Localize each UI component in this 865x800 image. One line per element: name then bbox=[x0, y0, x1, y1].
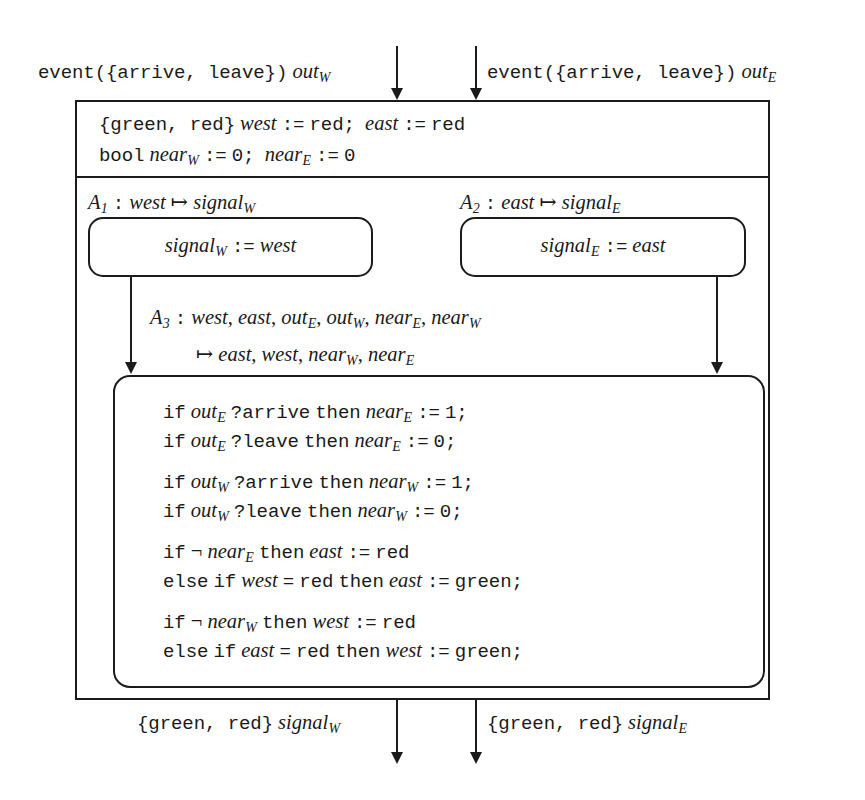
declaration-line-2: bool nearW := 0; nearE := 0 bbox=[99, 143, 355, 169]
statement-1: if outE ?arrive then nearE := 1; bbox=[163, 397, 523, 426]
statement-6: else if west = red then east := green; bbox=[163, 566, 523, 595]
atom-box-a1: signalW := west bbox=[88, 217, 373, 277]
statement-3: if outW ?arrive then nearW := 1; bbox=[163, 467, 523, 496]
statement-5: if ¬ nearE then east := red bbox=[163, 537, 523, 566]
input-arrow-out-w bbox=[396, 46, 398, 89]
declaration-section: {green, red} west := red; east := red bo… bbox=[75, 100, 770, 178]
atom-signature-a2: A2 : east ↦ signalE bbox=[460, 190, 621, 217]
connector-arrow-a1-to-a3 bbox=[130, 277, 132, 363]
diagram-canvas: event({arrive, leave}) outW event({arriv… bbox=[0, 0, 865, 800]
connector-arrow-a2-to-a3 bbox=[716, 277, 718, 363]
statement-4: if outW ?leave then nearW := 0; bbox=[163, 496, 523, 525]
atom-body-a2: signalE := east bbox=[462, 234, 744, 260]
output-arrow-signal-e bbox=[475, 700, 477, 753]
output-port-label-signal-w: {green, red} signalW bbox=[137, 711, 340, 737]
input-arrow-out-e bbox=[475, 46, 477, 89]
atom-box-a3: if outE ?arrive then nearE := 1; if outE… bbox=[113, 375, 765, 688]
statement-2: if outE ?leave then nearE := 0; bbox=[163, 426, 523, 455]
output-port-label-signal-e: {green, red} signalE bbox=[487, 711, 687, 737]
declaration-line-1: {green, red} west := red; east := red bbox=[99, 112, 465, 136]
output-arrow-signal-w bbox=[396, 700, 398, 753]
atom-signature-a1: A1 : west ↦ signalW bbox=[88, 190, 255, 217]
atom-body-a1: signalW := west bbox=[90, 234, 371, 260]
input-port-label-out-e: event({arrive, leave}) outE bbox=[487, 60, 776, 86]
input-port-label-out-w: event({arrive, leave}) outW bbox=[38, 60, 330, 86]
atom-signature-a3-line-1: A3 : west, east, outE, outW, nearE, near… bbox=[150, 306, 481, 328]
atom-signature-a3-line-2: ↦ east, west, nearW, nearE bbox=[150, 339, 481, 376]
atom-signature-a3: A3 : west, east, outE, outW, nearE, near… bbox=[150, 302, 481, 376]
statement-7: if ¬ nearW then west := red bbox=[163, 607, 523, 636]
atom-body-a3: if outE ?arrive then nearE := 1; if outE… bbox=[163, 397, 523, 665]
statement-8: else if east = red then west := green; bbox=[163, 636, 523, 665]
atom-box-a2: signalE := east bbox=[460, 217, 746, 277]
